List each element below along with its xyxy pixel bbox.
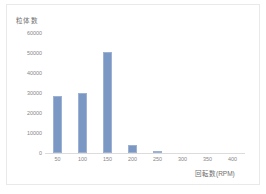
x-tick-label: 150 <box>103 156 112 162</box>
chart-card: 粒体数 0100002000030000400005000060000 5010… <box>6 4 260 185</box>
x-tick-label: 100 <box>78 156 87 162</box>
bar <box>103 52 112 153</box>
x-axis-title: 回転数(RPM) <box>195 168 235 178</box>
y-tick-label: 0 <box>12 150 42 156</box>
x-tick-label: 300 <box>178 156 187 162</box>
bar <box>78 93 87 153</box>
bar <box>128 145 137 153</box>
y-tick-label: 50000 <box>12 50 42 56</box>
y-tick-label: 30000 <box>12 90 42 96</box>
y-axis-title: 粒体数 <box>16 15 38 25</box>
x-axis-tick-labels: 50100150200250300350400 <box>45 156 245 168</box>
x-tick-label: 200 <box>128 156 137 162</box>
y-tick-label: 20000 <box>12 110 42 116</box>
x-tick-label: 350 <box>203 156 212 162</box>
x-tick-label: 250 <box>153 156 162 162</box>
y-tick-label: 60000 <box>12 30 42 36</box>
x-tick-label: 400 <box>228 156 237 162</box>
x-tick-label: 50 <box>55 156 61 162</box>
bar <box>53 96 62 153</box>
plot-area <box>45 27 245 153</box>
y-tick-label: 10000 <box>12 130 42 136</box>
y-axis-tick-labels: 0100002000030000400005000060000 <box>9 27 42 153</box>
x-axis-line <box>45 153 245 154</box>
y-tick-label: 40000 <box>12 70 42 76</box>
